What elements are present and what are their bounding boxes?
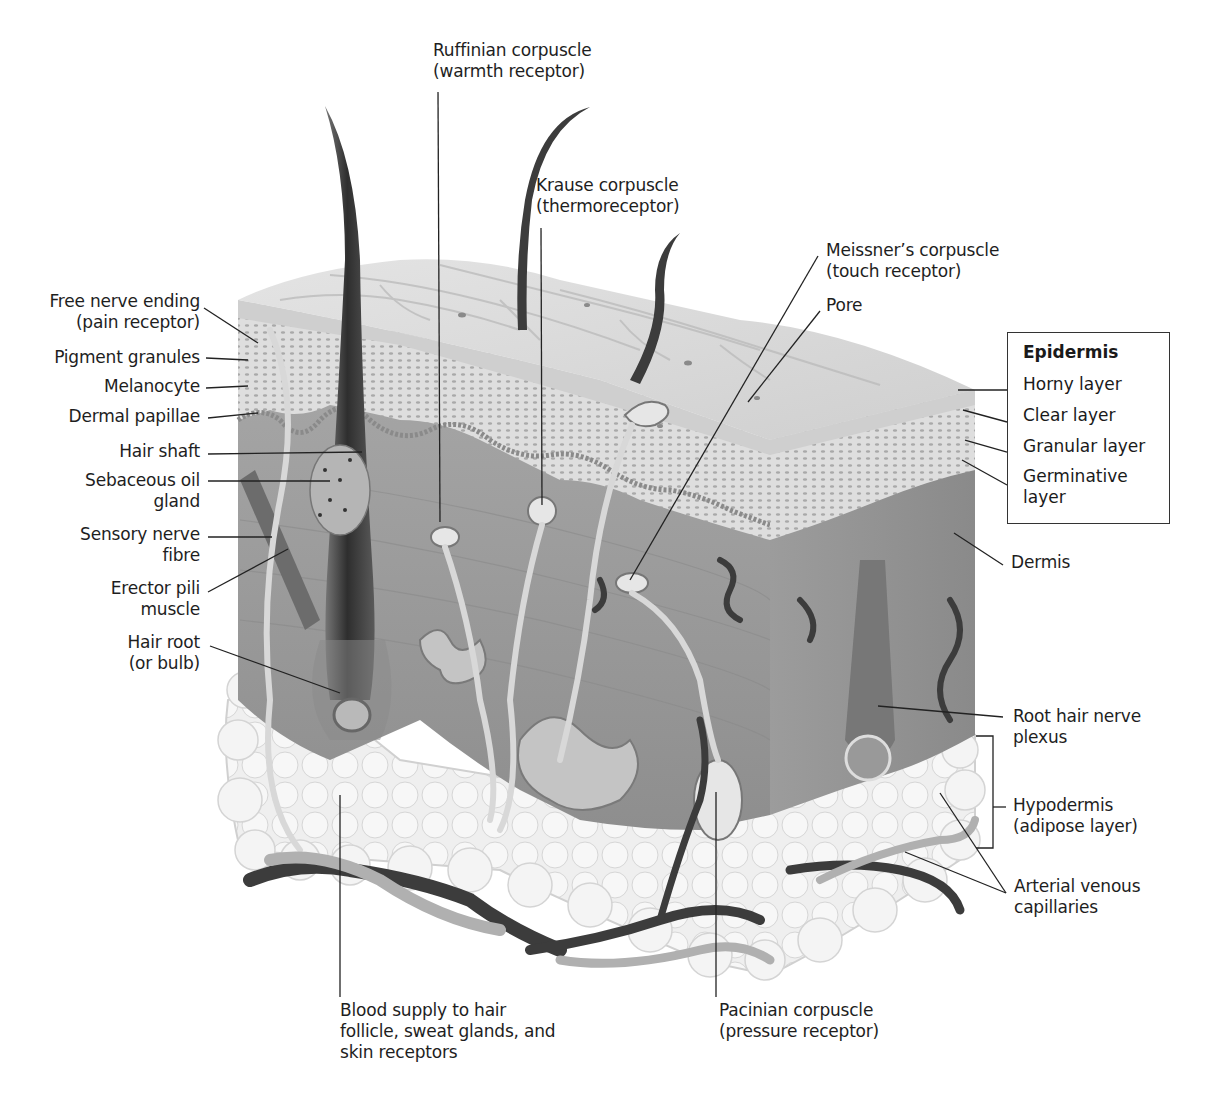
label-hypodermis: Hypodermis (adipose layer) [1013,795,1138,837]
label-pigment-granules: Pigment granules [20,347,200,368]
label-sensory-nerve-fibre: Sensory nerve fibre [20,524,200,566]
label-pacinian-corpuscle: Pacinian corpuscle (pressure receptor) [719,1000,879,1042]
label-arterial-venous-capillaries: Arterial venous capillaries [1014,876,1140,918]
label-melanocyte: Melanocyte [20,376,200,397]
label-hair-shaft: Hair shaft [20,441,200,462]
label-erector-pili-muscle: Erector pili muscle [20,578,200,620]
label-hair-root: Hair root (or bulb) [20,632,200,674]
label-krause-corpuscle: Krause corpuscle (thermoreceptor) [536,175,679,217]
label-root-hair-nerve-plexus: Root hair nerve plexus [1013,706,1141,748]
label-blood-supply: Blood supply to hair follicle, sweat gla… [340,1000,555,1063]
label-free-nerve-ending: Free nerve ending (pain receptor) [20,291,200,333]
label-pore: Pore [826,295,862,316]
sebaceous-gland [310,445,370,535]
label-ruffinian-corpuscle: Ruffinian corpuscle (warmth receptor) [433,40,592,82]
label-meissners-corpuscle: Meissner’s corpuscle (touch receptor) [826,240,999,282]
legend-granular-layer: Granular layer [1023,436,1145,457]
legend-horny-layer: Horny layer [1023,374,1122,395]
label-dermis: Dermis [1011,552,1070,573]
epidermis-legend-title: Epidermis [1023,342,1118,362]
label-dermal-papillae: Dermal papillae [20,406,200,427]
legend-clear-layer: Clear layer [1023,405,1116,426]
legend-germinative-layer: Germinative layer [1023,466,1128,508]
label-sebaceous-oil-gland: Sebaceous oil gland [20,470,200,512]
